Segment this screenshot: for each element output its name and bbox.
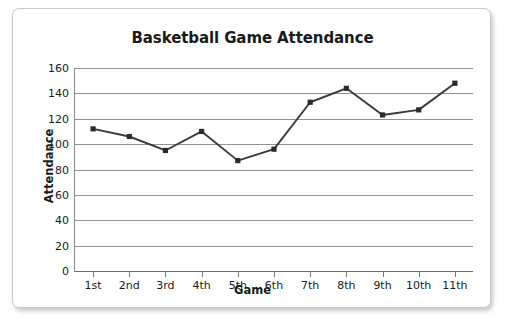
y-tick-label: 120: [23, 112, 69, 125]
data-point-marker: [344, 86, 349, 91]
x-tick: [202, 272, 203, 277]
data-point-marker: [416, 107, 421, 112]
data-point-marker: [452, 81, 457, 86]
data-point-marker: [90, 126, 95, 131]
y-tick-label: 160: [23, 62, 69, 75]
data-point-marker: [271, 147, 276, 152]
x-tick: [274, 272, 275, 277]
y-tick-label: 20: [23, 239, 69, 252]
x-tick: [165, 272, 166, 277]
data-point-marker: [380, 112, 385, 117]
plot-area: [75, 68, 473, 271]
x-tick: [310, 272, 311, 277]
y-axis-tick-labels: 160140120100806040200: [19, 68, 69, 271]
data-point-marker: [308, 100, 313, 105]
x-tick: [238, 272, 239, 277]
x-tick: [346, 272, 347, 277]
data-point-marker: [127, 134, 132, 139]
y-tick-label: 80: [23, 163, 69, 176]
chart-title: Basketball Game Attendance: [13, 29, 492, 47]
attendance-line-series: [75, 68, 473, 271]
y-tick-label: 100: [23, 138, 69, 151]
y-tick-label: 60: [23, 188, 69, 201]
data-point-marker: [163, 148, 168, 153]
x-axis-ticks: [75, 272, 473, 278]
y-tick-label: 0: [23, 265, 69, 278]
x-tick: [419, 272, 420, 277]
data-point-marker: [199, 129, 204, 134]
x-tick: [455, 272, 456, 277]
x-tick: [129, 272, 130, 277]
y-tick-label: 140: [23, 87, 69, 100]
y-tick-label: 40: [23, 214, 69, 227]
x-tick: [383, 272, 384, 277]
data-point-marker: [235, 158, 240, 163]
x-axis-title: Game: [13, 283, 492, 297]
chart-card: Basketball Game Attendance Attendance 16…: [12, 8, 491, 308]
x-tick: [93, 272, 94, 277]
